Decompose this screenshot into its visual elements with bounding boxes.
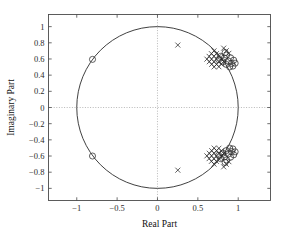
y-tick-label: 0.8 <box>34 38 45 48</box>
y-axis-ticks: 10.80.60.40.20−0.2−0.4−0.6−0.8−1 <box>29 22 270 194</box>
x-tick-label: 1 <box>236 203 240 213</box>
pole-marker <box>175 43 180 48</box>
x-tick-label: 0 <box>155 203 159 213</box>
pole-zero-plot-figure: −1−0.500.5110.80.60.40.20−0.2−0.4−0.6−0.… <box>0 0 282 240</box>
y-tick-label: 0 <box>40 103 44 113</box>
y-tick-label: 0.4 <box>34 70 45 80</box>
y-tick-label: −0.8 <box>29 167 44 177</box>
x-tick-label: −0.5 <box>109 203 124 213</box>
y-tick-label: 0.2 <box>34 86 45 96</box>
y-tick-label: 0.6 <box>34 54 45 64</box>
z-plane-scatter-chart: −1−0.500.5110.80.60.40.20−0.2−0.4−0.6−0.… <box>0 0 282 240</box>
pole-marker <box>175 168 180 173</box>
axes-box <box>49 15 271 201</box>
x-tick-label: −1 <box>72 203 81 213</box>
pole-marker <box>212 64 217 69</box>
y-tick-label: −1 <box>35 183 44 193</box>
x-tick-label: 0.5 <box>193 203 204 213</box>
pole-marker <box>212 146 217 151</box>
series-zeros <box>89 50 238 160</box>
y-axis-label: Imaginary Part <box>6 79 16 136</box>
pole-marker <box>216 64 221 69</box>
y-tick-label: 1 <box>40 22 44 32</box>
y-tick-label: −0.4 <box>29 135 45 145</box>
x-axis-ticks: −1−0.500.51 <box>72 15 240 214</box>
y-tick-label: −0.2 <box>29 119 44 129</box>
x-axis-label: Real Part <box>142 219 177 229</box>
pole-marker <box>216 146 221 151</box>
y-tick-label: −0.6 <box>29 151 44 161</box>
